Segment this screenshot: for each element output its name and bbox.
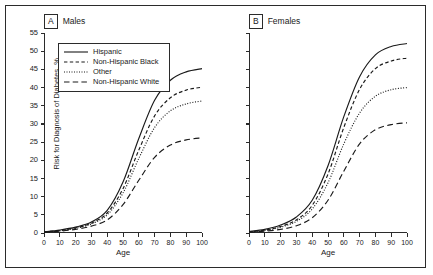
y-tick-label: 5 bbox=[34, 211, 38, 219]
x-tick: 70 bbox=[359, 233, 360, 237]
curve-hispanic bbox=[44, 69, 202, 232]
x-tick-label: 0 bbox=[247, 239, 251, 246]
panel-a-title: A Males bbox=[44, 14, 85, 29]
x-tick: 60 bbox=[138, 233, 139, 237]
curve-group-females bbox=[249, 33, 407, 233]
legend-item-other: Other bbox=[63, 67, 165, 77]
curve-hispanic bbox=[249, 44, 407, 232]
legend-swatch-dashed bbox=[63, 58, 89, 66]
legend-label-non-hispanic-black: Non-Hispanic Black bbox=[93, 58, 158, 66]
y-tick-label: 55 bbox=[30, 29, 38, 37]
x-tick: 30 bbox=[91, 233, 92, 237]
panel-a-name: Males bbox=[63, 17, 86, 26]
x-tick-label: 50 bbox=[324, 239, 332, 246]
y-tick-label: 50 bbox=[30, 47, 38, 55]
y-tick-label: 0 bbox=[34, 229, 38, 237]
x-tick: 70 bbox=[154, 233, 155, 237]
panel-b-letter: B bbox=[249, 14, 263, 29]
x-tick: 30 bbox=[296, 233, 297, 237]
x-tick: 50 bbox=[123, 233, 124, 237]
x-tick: 90 bbox=[391, 233, 392, 237]
x-tick-label: 70 bbox=[151, 239, 159, 246]
x-tick-label: 70 bbox=[356, 239, 364, 246]
x-tick-label: 100 bbox=[401, 239, 413, 246]
panel-a-letter: A bbox=[44, 14, 58, 29]
plot-area-females: 0102030405060708090100 bbox=[249, 33, 407, 233]
legend-item-non-hispanic-black: Non-Hispanic Black bbox=[63, 57, 165, 67]
legend-swatch-dotted bbox=[63, 68, 89, 76]
legend-item-non-hispanic-white: Non-Hispanic White bbox=[63, 77, 165, 87]
y-tick-label: 45 bbox=[30, 66, 38, 74]
x-tick: 90 bbox=[186, 233, 187, 237]
legend: Hispanic Non-Hispanic Black Other Non-Hi… bbox=[58, 43, 170, 92]
legend-swatch-solid bbox=[63, 48, 89, 56]
curve-non-hispanic-white bbox=[249, 123, 407, 232]
x-tick: 20 bbox=[280, 233, 281, 237]
y-tick-label: 40 bbox=[30, 84, 38, 92]
legend-label-other: Other bbox=[93, 68, 112, 76]
y-tick-label: 30 bbox=[30, 120, 38, 128]
panel-b-title: B Females bbox=[249, 14, 300, 29]
legend-item-hispanic: Hispanic bbox=[63, 47, 165, 57]
curve-other bbox=[44, 101, 202, 232]
x-tick-label: 60 bbox=[340, 239, 348, 246]
x-tick: 100 bbox=[202, 233, 203, 237]
x-tick: 50 bbox=[328, 233, 329, 237]
legend-swatch-longdash bbox=[63, 78, 89, 86]
x-tick: 20 bbox=[75, 233, 76, 237]
curve-non-hispanic-black bbox=[249, 58, 407, 232]
x-tick-label: 90 bbox=[182, 239, 190, 246]
x-axis-title-a: Age bbox=[44, 249, 202, 257]
x-tick-label: 0 bbox=[42, 239, 46, 246]
x-tick-label: 20 bbox=[277, 239, 285, 246]
x-tick-label: 80 bbox=[167, 239, 175, 246]
x-tick-label: 80 bbox=[372, 239, 380, 246]
x-tick: 60 bbox=[343, 233, 344, 237]
y-tick-label: 35 bbox=[30, 102, 38, 110]
figure-frame: A Males Risk for Diagnosis of Diabetes, … bbox=[5, 5, 426, 268]
x-tick-label: 30 bbox=[88, 239, 96, 246]
x-tick-label: 30 bbox=[293, 239, 301, 246]
x-tick: 80 bbox=[170, 233, 171, 237]
x-tick: 0 bbox=[249, 233, 250, 237]
x-tick: 10 bbox=[264, 233, 265, 237]
y-tick-label: 15 bbox=[30, 175, 38, 183]
x-tick: 0 bbox=[44, 233, 45, 237]
x-tick: 40 bbox=[312, 233, 313, 237]
x-tick-label: 10 bbox=[261, 239, 269, 246]
x-tick-label: 50 bbox=[119, 239, 127, 246]
legend-label-non-hispanic-white: Non-Hispanic White bbox=[93, 78, 159, 86]
y-tick-label: 25 bbox=[30, 138, 38, 146]
x-tick-label: 60 bbox=[135, 239, 143, 246]
x-tick-label: 90 bbox=[387, 239, 395, 246]
curve-non-hispanic-white bbox=[44, 138, 202, 233]
x-tick: 100 bbox=[407, 233, 408, 237]
curve-other bbox=[249, 88, 407, 232]
x-tick-label: 40 bbox=[308, 239, 316, 246]
x-tick-label: 10 bbox=[56, 239, 64, 246]
x-tick-label: 40 bbox=[103, 239, 111, 246]
x-tick: 40 bbox=[107, 233, 108, 237]
x-tick: 10 bbox=[59, 233, 60, 237]
y-tick-label: 10 bbox=[30, 193, 38, 201]
y-tick-label: 20 bbox=[30, 157, 38, 165]
x-tick-label: 100 bbox=[196, 239, 208, 246]
panel-b-name: Females bbox=[268, 17, 301, 26]
x-tick-label: 20 bbox=[72, 239, 80, 246]
panel-females: B Females 0102030405060708090100 Age bbox=[211, 6, 421, 269]
x-tick: 80 bbox=[375, 233, 376, 237]
panel-males: A Males Risk for Diagnosis of Diabetes, … bbox=[6, 6, 216, 269]
curve-non-hispanic-black bbox=[44, 87, 202, 232]
x-axis-title-b: Age bbox=[249, 249, 407, 257]
legend-label-hispanic: Hispanic bbox=[93, 48, 122, 56]
